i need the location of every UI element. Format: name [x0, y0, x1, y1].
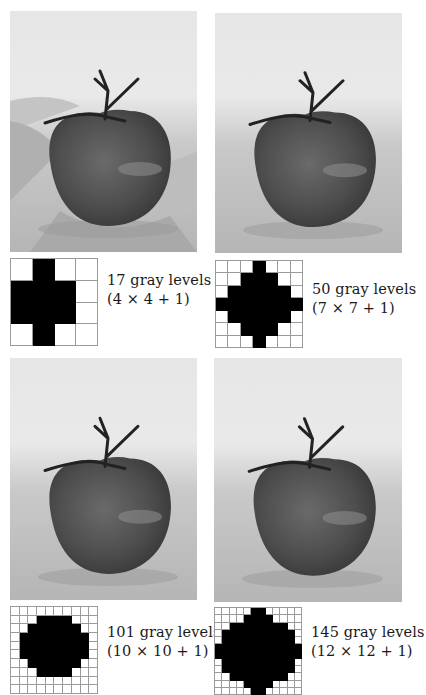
grid-cell-filled: [55, 303, 77, 325]
grid-cell-filled: [46, 616, 55, 625]
grid-cell-filled: [72, 642, 81, 651]
grid-cell-empty: [89, 633, 98, 642]
grid-cell-filled: [280, 623, 287, 630]
grid-cell-filled: [244, 623, 251, 630]
grid-cell-filled: [37, 642, 46, 651]
grid-cell-empty: [228, 336, 240, 348]
grid-cell-empty: [280, 681, 287, 688]
grid-cell-filled: [273, 644, 280, 651]
grid-cell-empty: [266, 688, 273, 695]
grid-cell-filled: [230, 652, 237, 659]
grid-cell-filled: [266, 666, 273, 673]
grid-cell-filled: [273, 630, 280, 637]
grid-cell-filled: [222, 644, 229, 651]
grid-cell-filled: [259, 644, 266, 651]
halftone-cell-grid: [214, 607, 302, 695]
grid-cell-empty: [280, 608, 287, 615]
grid-cell-filled: [253, 286, 265, 298]
grid-cell-empty: [63, 677, 72, 686]
grid-cell-filled: [244, 673, 251, 680]
grid-cell-filled: [280, 630, 287, 637]
grid-cell-empty: [288, 615, 295, 622]
grid-cell-empty: [222, 608, 229, 615]
grid-cell-empty: [72, 607, 81, 616]
grid-cell-empty: [215, 623, 222, 630]
grid-cell-empty: [20, 668, 29, 677]
grid-cell-filled: [251, 652, 258, 659]
tomato-image-icon: [214, 358, 402, 602]
grid-cell-filled: [54, 616, 63, 625]
grid-cell-filled: [244, 615, 251, 622]
grid-cell-filled: [72, 659, 81, 668]
grid-cell-filled: [266, 644, 273, 651]
grid-cell-filled: [230, 623, 237, 630]
halftone-cell-grid: [215, 260, 303, 348]
grid-cell-filled: [237, 637, 244, 644]
grid-cell-empty: [46, 607, 55, 616]
grid-cell-filled: [280, 637, 287, 644]
grid-cell-filled: [28, 659, 37, 668]
grid-cell-empty: [89, 616, 98, 625]
grid-cell-empty: [295, 659, 302, 666]
grid-cell-filled: [222, 630, 229, 637]
grid-cell-filled: [241, 298, 253, 310]
grid-cell-filled: [33, 324, 55, 346]
grid-cell-filled: [54, 642, 63, 651]
tomato-photo-p145: [214, 358, 402, 602]
halftone-cell-grid: [10, 258, 98, 346]
grid-cell-empty: [28, 607, 37, 616]
grid-cell-filled: [273, 666, 280, 673]
grid-cell-empty: [28, 677, 37, 686]
grid-cell-filled: [28, 650, 37, 659]
grid-cell-empty: [230, 608, 237, 615]
grid-cell-filled: [81, 633, 90, 642]
grid-cell-filled: [81, 642, 90, 651]
grid-cell-filled: [37, 624, 46, 633]
grid-cell-filled: [266, 630, 273, 637]
grid-cell-filled: [280, 652, 287, 659]
grid-cell-empty: [291, 273, 303, 285]
grid-cell-filled: [253, 298, 265, 310]
grid-cell-empty: [295, 637, 302, 644]
grid-cell-empty: [55, 259, 77, 281]
grid-cell-empty: [237, 681, 244, 688]
grid-cell-empty: [216, 286, 228, 298]
grid-cell-filled: [54, 668, 63, 677]
grid-cell-empty: [266, 336, 278, 348]
grid-cell-filled: [259, 623, 266, 630]
grid-cell-filled: [46, 633, 55, 642]
grid-cell-empty: [291, 286, 303, 298]
grid-cell-empty: [222, 673, 229, 680]
grid-cell-empty: [216, 323, 228, 335]
grid-cell-filled: [215, 652, 222, 659]
grid-cell-empty: [81, 616, 90, 625]
grid-cell-filled: [46, 624, 55, 633]
grid-cell-empty: [216, 273, 228, 285]
grid-cell-empty: [20, 607, 29, 616]
grid-cell-filled: [33, 281, 55, 303]
grid-cell-empty: [237, 688, 244, 695]
grid-cell-filled: [280, 666, 287, 673]
grid-cell-filled: [63, 650, 72, 659]
gray-levels-caption: 145 gray levels(12 × 12 + 1): [311, 623, 425, 661]
grid-cell-filled: [266, 673, 273, 680]
grid-cell-filled: [63, 616, 72, 625]
grid-cell-filled: [20, 650, 29, 659]
grid-cell-empty: [295, 666, 302, 673]
grid-cell-empty: [20, 685, 29, 694]
grid-cell-filled: [280, 644, 287, 651]
grid-cell-filled: [259, 608, 266, 615]
grid-cell-empty: [291, 311, 303, 323]
grid-cell-filled: [28, 642, 37, 651]
grid-cell-filled: [81, 650, 90, 659]
grid-cell-filled: [288, 630, 295, 637]
grid-cell-filled: [266, 286, 278, 298]
grid-cell-filled: [251, 688, 258, 695]
grid-cell-filled: [230, 673, 237, 680]
grid-cell-empty: [76, 324, 98, 346]
grid-cell-empty: [295, 608, 302, 615]
grid-cell-filled: [63, 659, 72, 668]
grid-cell-empty: [20, 624, 29, 633]
grid-cell-filled: [251, 673, 258, 680]
grid-cell-empty: [72, 668, 81, 677]
